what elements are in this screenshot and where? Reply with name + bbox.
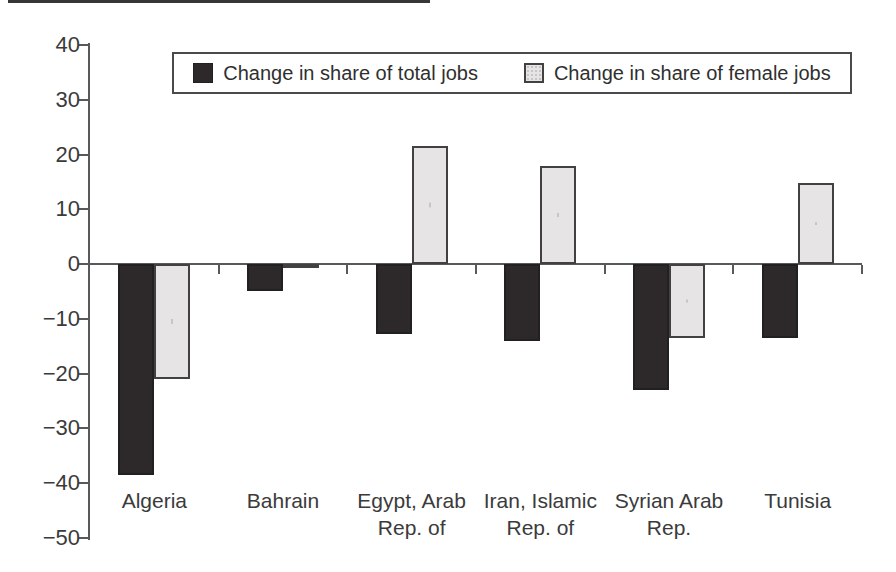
bar-female-syria (669, 264, 705, 338)
y-axis-tick-label: −30 (14, 415, 80, 441)
y-axis-tick-label: 40 (14, 32, 80, 58)
category-label-line: Bahrain (208, 487, 358, 514)
bar-total-algeria (118, 264, 154, 475)
y-axis-tick-label: 10 (14, 196, 80, 222)
legend-label-total-jobs: Change in share of total jobs (223, 62, 478, 85)
y-axis-line (88, 43, 90, 540)
x-axis-tick (475, 265, 477, 274)
bar-total-syria (633, 264, 669, 390)
legend-swatch-female-jobs (524, 63, 544, 83)
bar-female-algeria (154, 264, 190, 379)
category-label-line: Algeria (79, 487, 229, 514)
x-axis-tick (861, 265, 863, 274)
category-label-line: Rep. of (337, 514, 487, 541)
bar-female-bahrain (283, 264, 319, 268)
y-axis-tick-label: 30 (14, 87, 80, 113)
x-axis-category-label-algeria: Algeria (79, 487, 229, 514)
category-label-line: Rep. (594, 514, 744, 541)
bar-female-egypt (412, 146, 448, 264)
x-axis-tick (346, 265, 348, 274)
x-axis-tick (604, 265, 606, 274)
bar-total-bahrain (247, 264, 283, 291)
legend-label-female-jobs: Change in share of female jobs (554, 62, 831, 85)
bar-total-tunisia (762, 264, 798, 338)
y-axis-tick-label: 0 (14, 251, 80, 277)
x-axis-tick (732, 265, 734, 274)
y-axis-tick-label: −20 (14, 361, 80, 387)
scan-edge-artifact (8, 0, 430, 3)
category-label-line: Tunisia (723, 487, 873, 514)
legend: Change in share of total jobs Change in … (172, 52, 852, 94)
category-label-line: Syrian Arab (594, 487, 744, 514)
legend-swatch-total-jobs (193, 63, 213, 83)
category-label-line: Iran, Islamic (465, 487, 615, 514)
x-axis-category-label-egypt: Egypt, ArabRep. of (337, 487, 487, 541)
x-axis-tick (218, 265, 220, 274)
x-axis-category-label-bahrain: Bahrain (208, 487, 358, 514)
category-label-line: Egypt, Arab (337, 487, 487, 514)
x-axis-category-label-syria: Syrian ArabRep. (594, 487, 744, 541)
bar-total-egypt (376, 264, 412, 334)
bar-female-tunisia (798, 183, 834, 264)
y-axis-tick-label: −40 (14, 470, 80, 496)
category-label-line: Rep. of (465, 514, 615, 541)
bar-chart-figure: Change in share of total jobs Change in … (0, 0, 896, 572)
x-axis-category-label-tunisia: Tunisia (723, 487, 873, 514)
y-axis-tick-label: 20 (14, 142, 80, 168)
y-axis-tick-label: −10 (14, 306, 80, 332)
bar-total-iran (504, 264, 540, 341)
legend-item-female-jobs: Change in share of female jobs (524, 62, 831, 85)
legend-item-total-jobs: Change in share of total jobs (193, 62, 478, 85)
bar-female-iran (540, 166, 576, 265)
x-axis-category-label-iran: Iran, IslamicRep. of (465, 487, 615, 541)
y-axis-tick-label: −50 (14, 525, 80, 551)
